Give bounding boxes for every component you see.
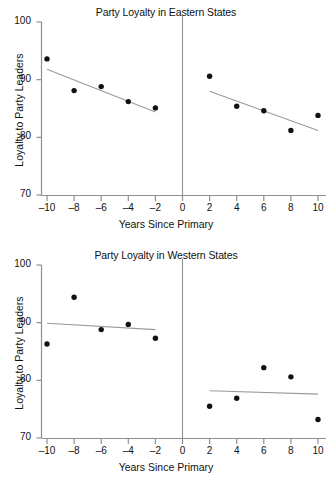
- y-axis-tick-label: 90: [7, 316, 31, 327]
- x-axis-tick-label: –6: [88, 202, 114, 213]
- data-point: [153, 336, 158, 341]
- y-axis-tick-label: 70: [7, 188, 31, 199]
- y-axis-tick-label: 80: [7, 130, 31, 141]
- two-panel-scatter-figure: Party Loyalty in Eastern States Loyalty …: [0, 0, 332, 486]
- data-point: [99, 84, 104, 89]
- data-point: [234, 103, 239, 108]
- x-axis-tick-label: 0: [170, 445, 196, 456]
- x-axis-tick-label: –4: [115, 202, 141, 213]
- x-axis-tick-label: 10: [305, 445, 331, 456]
- x-axis-tick-label: –10: [34, 445, 60, 456]
- y-axis-tick-label: 100: [7, 258, 31, 269]
- data-point: [44, 56, 49, 61]
- data-point: [126, 322, 131, 327]
- x-axis-tick-label: 6: [251, 202, 277, 213]
- x-axis-tick-label: 6: [251, 445, 277, 456]
- y-axis-tick-label: 80: [7, 373, 31, 384]
- x-axis-tick-label: 10: [305, 202, 331, 213]
- chart-panel-eastern-states: Party Loyalty in Eastern States Loyalty …: [0, 0, 332, 243]
- data-point: [234, 396, 239, 401]
- data-point: [99, 327, 104, 332]
- x-axis-tick-label: 4: [224, 202, 250, 213]
- data-point: [315, 113, 320, 118]
- x-axis-tick-label: –4: [115, 445, 141, 456]
- y-axis-tick-label: 90: [7, 73, 31, 84]
- x-axis-tick-label: –2: [142, 202, 168, 213]
- x-axis-tick-label: –8: [61, 445, 87, 456]
- x-axis-tick-label: 8: [278, 445, 304, 456]
- chart-panel-western-states: Party Loyalty in Western States Loyalty …: [0, 243, 332, 486]
- data-point: [261, 108, 266, 113]
- x-axis-tick-label: 8: [278, 202, 304, 213]
- x-axis-tick-label: –10: [34, 202, 60, 213]
- data-point: [126, 99, 131, 104]
- data-point: [153, 105, 158, 110]
- x-axis-tick-label: 2: [197, 202, 223, 213]
- x-axis-tick-label: –6: [88, 445, 114, 456]
- x-axis-tick-label: 2: [197, 445, 223, 456]
- data-point: [207, 74, 212, 79]
- data-point: [261, 365, 266, 370]
- x-axis-tick-label: 0: [170, 202, 196, 213]
- x-axis-tick-label: –2: [142, 445, 168, 456]
- data-point: [207, 404, 212, 409]
- x-axis-tick-label: –8: [61, 202, 87, 213]
- data-point: [315, 417, 320, 422]
- data-point: [71, 88, 76, 93]
- data-point: [44, 341, 49, 346]
- y-axis-tick-label: 100: [7, 15, 31, 26]
- data-point: [288, 374, 293, 379]
- x-axis-tick-label: 4: [224, 445, 250, 456]
- data-point: [71, 295, 76, 300]
- y-axis-tick-label: 70: [7, 431, 31, 442]
- regression-line: [47, 69, 155, 112]
- regression-line: [210, 391, 318, 394]
- data-point: [288, 128, 293, 133]
